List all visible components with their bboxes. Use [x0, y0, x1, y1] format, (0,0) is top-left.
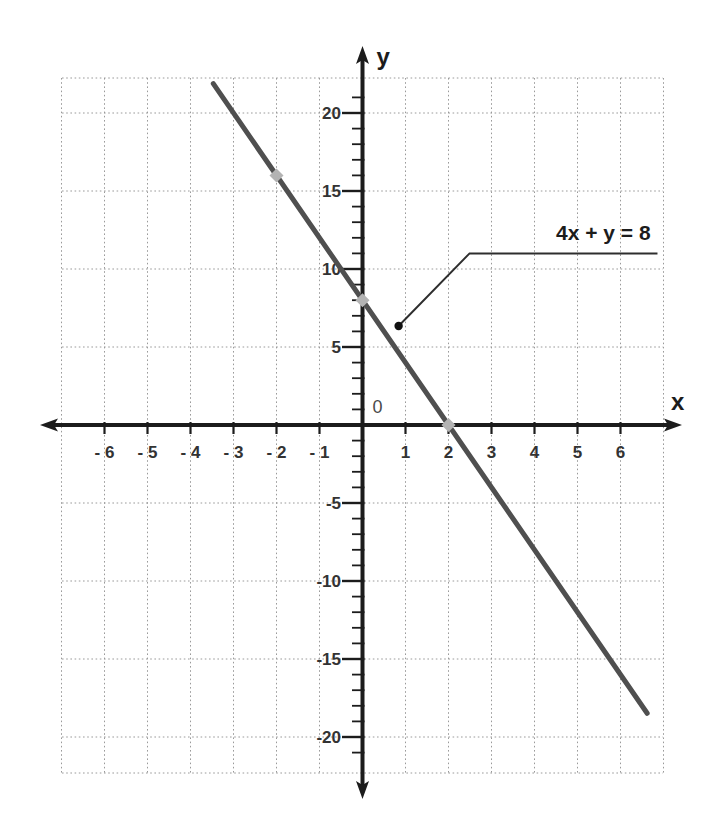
x-tick-label: 4 — [530, 443, 540, 462]
x-tick-label: - 4 — [181, 443, 201, 462]
x-tick-label: - 2 — [267, 443, 287, 462]
y-tick-label: -10 — [316, 572, 341, 591]
y-tick-label: 5 — [332, 338, 341, 357]
x-tick-label: - 5 — [138, 443, 158, 462]
x-tick-label: 5 — [573, 443, 582, 462]
y-tick-label: 15 — [322, 182, 341, 201]
y-tick-label: 20 — [322, 104, 341, 123]
x-tick-label: 2 — [444, 443, 453, 462]
origin-label: 0 — [372, 397, 382, 417]
coordinate-plane-chart: - 6- 5- 4- 3- 2- 11234562015105-5-10-15-… — [0, 0, 714, 836]
x-tick-label: 3 — [487, 443, 496, 462]
y-tick-label: -15 — [316, 650, 341, 669]
page: - 6- 5- 4- 3- 2- 11234562015105-5-10-15-… — [0, 0, 714, 836]
graph-figure: - 6- 5- 4- 3- 2- 11234562015105-5-10-15-… — [0, 0, 714, 836]
x-tick-label: - 1 — [310, 443, 330, 462]
x-tick-label: - 6 — [95, 443, 115, 462]
equation-label: 4x + y = 8 — [556, 221, 651, 244]
chart-background — [0, 0, 714, 836]
x-tick-label: 1 — [401, 443, 410, 462]
annotation-dot — [394, 322, 402, 330]
y-axis-label: y — [377, 43, 391, 70]
x-tick-label: - 3 — [224, 443, 244, 462]
y-tick-label: -5 — [326, 494, 341, 513]
x-tick-label: 6 — [616, 443, 625, 462]
x-axis-label: x — [671, 388, 685, 415]
y-tick-label: -20 — [316, 728, 341, 747]
